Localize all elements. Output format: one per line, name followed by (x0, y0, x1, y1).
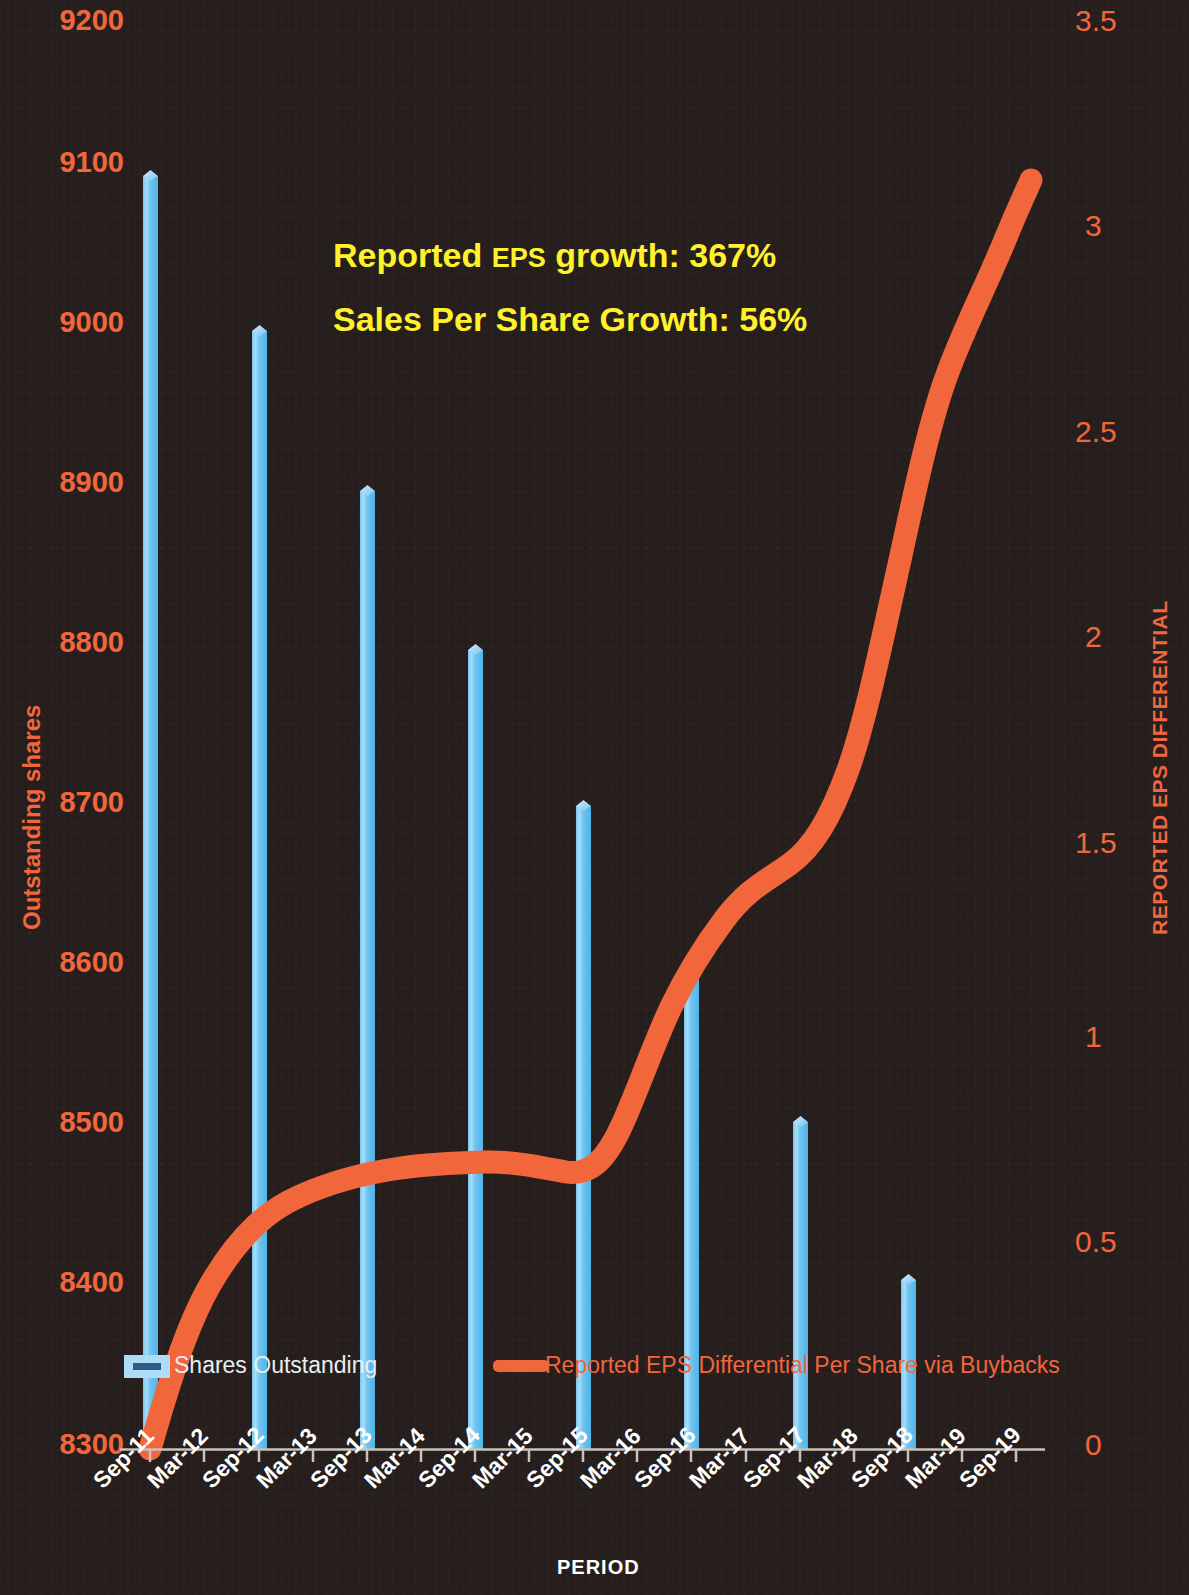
legend-swatch-reported-eps (493, 1360, 549, 1372)
legend-label-reported-eps: Reported EPS Differential Per Share via … (545, 1352, 1060, 1379)
x-axis-title: PERIOD (557, 1556, 640, 1579)
legend-swatch-shares-outstanding (124, 1355, 170, 1378)
legend-label-shares-outstanding: Shares Outstanding (174, 1352, 377, 1379)
chart-root: 9200 9100 9000 8900 8800 8700 8600 8500 … (0, 0, 1189, 1595)
